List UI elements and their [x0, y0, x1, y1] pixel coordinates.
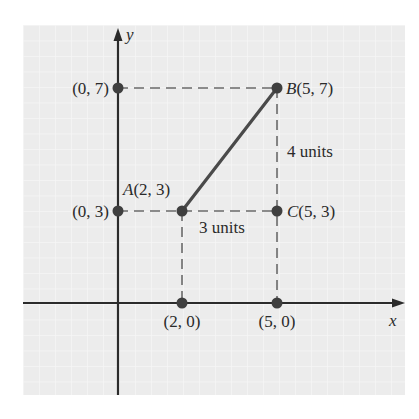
label-x2: (2, 0)	[164, 312, 201, 331]
label-A: A(2, 3)	[122, 180, 170, 199]
x-axis-label: x	[388, 311, 397, 330]
label-A-name: A	[122, 180, 134, 199]
label-y7: (0, 7)	[72, 79, 109, 98]
point-C	[272, 206, 283, 217]
label-x5: (5, 0)	[259, 312, 296, 331]
label-B-name: B	[286, 79, 297, 98]
y-axis-label: y	[124, 25, 134, 44]
label-B-coords: (5, 7)	[296, 79, 333, 98]
point-y3	[113, 206, 124, 217]
label-A-coords: (2, 3)	[133, 180, 170, 199]
label-C-name: C	[287, 202, 299, 221]
annotation-vertical-distance: 4 units	[287, 142, 333, 161]
annotation-horizontal-distance: 3 units	[199, 218, 245, 237]
point-y7	[113, 83, 124, 94]
label-y3: (0, 3)	[72, 202, 109, 221]
point-B	[272, 83, 283, 94]
coordinate-plane-figure: y x (0, 7) (0, 3) A(2, 3) B(5, 7) C(5, 3…	[0, 0, 419, 419]
label-C: C(5, 3)	[287, 202, 335, 221]
point-A	[177, 206, 188, 217]
point-x2	[177, 298, 188, 309]
label-C-coords: (5, 3)	[298, 202, 335, 221]
label-B: B(5, 7)	[286, 79, 333, 98]
point-x5	[272, 298, 283, 309]
